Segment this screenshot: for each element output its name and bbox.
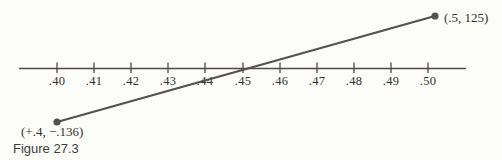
tick-label: .47 [300,74,334,89]
tick-label: .44 [188,74,222,89]
point-label-upper: (.5, 125) [444,10,488,26]
point-label-lower: (+.4, −.136) [21,124,83,140]
figure-27-3: .40 .41 .42 .43 .44 .45 .46 .47 .48 .49 … [0,0,502,160]
tick-label: .45 [226,74,260,89]
figure-caption: Figure 27.3 [13,141,79,156]
tick-label: .42 [114,74,148,89]
tick-label: .49 [374,74,408,89]
tick-label: .43 [151,74,185,89]
tick-label: .41 [77,74,111,89]
tick-label: .48 [337,74,371,89]
labels-layer: .40 .41 .42 .43 .44 .45 .46 .47 .48 .49 … [0,0,502,160]
tick-label: .46 [263,74,297,89]
tick-label: .50 [411,74,445,89]
tick-label: .40 [40,74,74,89]
